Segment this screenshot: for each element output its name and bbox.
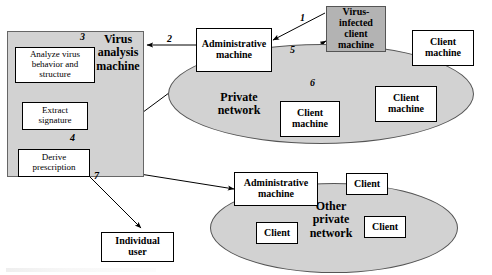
machine-box-individual-user-label: Individual user	[115, 236, 159, 258]
process-box-extract-signature: Extract signature	[22, 102, 88, 130]
process-box-analyze-virus: Analyze virus behavior and structure	[15, 47, 95, 83]
other-private-network-title: Other private network	[297, 200, 365, 240]
machine-box-client-other-top: Client	[346, 173, 388, 195]
page-footer-artifact	[6, 268, 156, 272]
machine-box-client-machine-bottomcenter: Client machine	[280, 101, 340, 137]
process-box-analyze-virus-label: Analyze virus behavior and structure	[30, 50, 80, 79]
machine-box-client-other-top-label: Client	[354, 179, 380, 190]
edge-label-2: 2	[167, 33, 172, 44]
edge-1-arrow	[273, 13, 325, 40]
edge-label-1: 1	[300, 12, 305, 23]
machine-box-virus-infected-client: Virus- infected client machine	[326, 6, 386, 52]
edge-label-7: 7	[94, 170, 99, 181]
edge-label-5: 5	[290, 44, 295, 55]
machine-box-client-machine-topright-label: Client machine	[425, 37, 461, 59]
machine-box-client-machine-topright: Client machine	[412, 30, 474, 66]
machine-box-client-other-left: Client	[256, 222, 298, 244]
edge-label-3: 3	[80, 31, 85, 42]
machine-box-administrative-machine-1: Administrative machine	[196, 28, 272, 72]
machine-box-administrative-machine-2: Administrative machine	[234, 172, 318, 206]
machine-box-client-other-left-label: Client	[264, 228, 290, 239]
machine-box-client-machine-bottomright: Client machine	[375, 86, 437, 122]
machine-box-individual-user: Individual user	[101, 232, 174, 262]
machine-box-administrative-machine-1-label: Administrative machine	[202, 39, 266, 61]
private-network-title: Private network	[196, 91, 282, 118]
machine-box-client-other-right: Client	[364, 216, 406, 238]
diagram-canvas: Analyze virus behavior and structure Ext…	[0, 0, 492, 275]
machine-box-client-other-right-label: Client	[372, 222, 398, 233]
machine-box-client-machine-bottomcenter-label: Client machine	[292, 108, 328, 130]
edge-label-6: 6	[310, 77, 315, 88]
machine-box-virus-infected-client-label: Virus- infected client machine	[338, 7, 374, 50]
process-box-extract-signature-label: Extract signature	[39, 106, 72, 125]
machine-box-administrative-machine-2-label: Administrative machine	[244, 178, 308, 200]
machine-box-client-machine-bottomright-label: Client machine	[388, 93, 424, 115]
process-box-derive-prescription-label: Derive prescription	[33, 153, 76, 172]
edge-label-4: 4	[70, 132, 75, 143]
process-box-derive-prescription: Derive prescription	[18, 149, 90, 177]
virus-analysis-machine-title: Virus analysis machine	[92, 33, 144, 73]
